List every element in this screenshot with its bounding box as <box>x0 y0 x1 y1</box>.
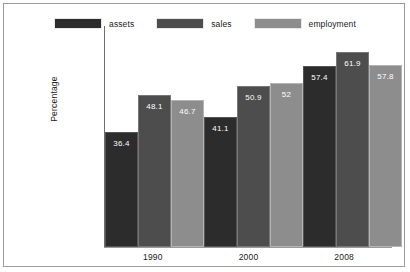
x-tick-2008: 2008 <box>296 252 392 262</box>
bar-value-label: 41.1 <box>212 124 228 133</box>
bar-value-label: 46.7 <box>179 107 195 116</box>
bar-group-2000: 41.1 50.9 52 <box>204 26 303 247</box>
bar-value-label: 48.1 <box>146 102 162 111</box>
bar-value-label: 57.8 <box>377 72 393 81</box>
bar-group-1990: 36.4 48.1 46.7 <box>105 26 204 247</box>
bar-sales-2008[interactable]: 61.9 <box>336 52 369 247</box>
x-tick-2000: 2000 <box>201 252 297 262</box>
bar-value-label: 52 <box>282 90 291 99</box>
bar-value-label: 57.4 <box>311 73 327 82</box>
bar-value-label: 50.9 <box>245 93 261 102</box>
bar-assets-2000[interactable]: 41.1 <box>204 117 237 247</box>
bar-groups: 36.4 48.1 46.7 41.1 50.9 52 <box>105 26 392 247</box>
bar-sales-1990[interactable]: 48.1 <box>138 95 171 247</box>
x-axis-line <box>104 247 392 248</box>
bar-group-2008: 57.4 61.9 57.8 <box>303 26 402 247</box>
bar-employment-1990[interactable]: 46.7 <box>171 100 204 247</box>
plot-area: Percentage 36.4 48.1 46.7 41.1 <box>4 4 406 268</box>
bar-employment-2000[interactable]: 52 <box>270 83 303 247</box>
chart-frame: assets sales employment Percentage 36.4 … <box>3 3 405 267</box>
y-axis-title: Percentage <box>49 59 59 139</box>
x-axis-tick-labels: 1990 2000 2008 <box>105 252 392 262</box>
bar-assets-1990[interactable]: 36.4 <box>105 132 138 247</box>
bar-assets-2008[interactable]: 57.4 <box>303 66 336 247</box>
x-tick-1990: 1990 <box>105 252 201 262</box>
bar-employment-2008[interactable]: 57.8 <box>369 65 402 247</box>
bar-value-label: 61.9 <box>344 59 360 68</box>
bar-sales-2000[interactable]: 50.9 <box>237 86 270 247</box>
bar-value-label: 36.4 <box>113 139 129 148</box>
